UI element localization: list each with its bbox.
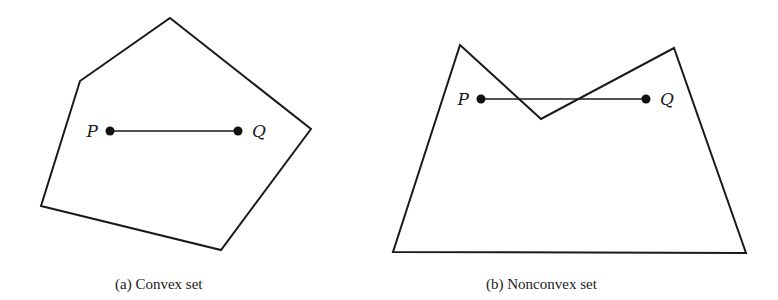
point-p-nonconvex bbox=[477, 95, 486, 104]
convex-polygon bbox=[41, 18, 311, 250]
point-p-convex bbox=[106, 127, 115, 136]
label-p-convex: P bbox=[86, 121, 99, 141]
point-q-convex bbox=[234, 127, 243, 136]
label-q-convex: Q bbox=[252, 121, 266, 141]
convexity-figure: P Q P Q (a) Convex set (b) Nonconvex set bbox=[0, 0, 778, 300]
label-p-nonconvex: P bbox=[457, 89, 470, 109]
label-q-nonconvex: Q bbox=[660, 89, 674, 109]
caption-convex-set: (a) Convex set bbox=[115, 276, 202, 293]
caption-nonconvex-set: (b) Nonconvex set bbox=[486, 276, 597, 293]
panel-convex: P Q bbox=[41, 18, 311, 250]
panel-nonconvex: P Q bbox=[393, 45, 746, 253]
nonconvex-polygon bbox=[393, 45, 746, 253]
point-q-nonconvex bbox=[642, 95, 651, 104]
figure-canvas: P Q P Q bbox=[0, 0, 778, 300]
